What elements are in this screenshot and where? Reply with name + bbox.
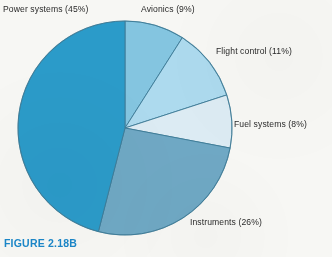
figure-caption: FIGURE 2.18B (4, 237, 77, 249)
pie-label-instruments: Instruments (26%) (190, 218, 262, 227)
pie-label-power-systems: Power systems (45%) (3, 5, 88, 14)
figure-container: Power systems (45%) Avionics (9%) Flight… (0, 0, 332, 257)
pie-label-flight-control: Flight control (11%) (216, 47, 292, 56)
pie-slice-group (18, 21, 232, 235)
pie-label-avionics: Avionics (9%) (141, 5, 195, 14)
pie-label-fuel-systems: Fuel systems (8%) (234, 120, 307, 129)
